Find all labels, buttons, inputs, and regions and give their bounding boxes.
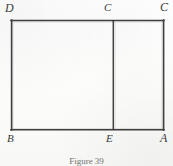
ink-bleed [11,20,164,130]
geometry-diagram [0,0,173,166]
vertex-label-a: A [160,132,167,144]
vertex-label-d: D [5,2,14,14]
vertex-label-b: B [7,133,14,144]
vertex-label-e: E [106,133,113,144]
figure-caption: Figure 39 [0,156,173,166]
rectangle-outline [11,20,164,130]
vertex-label-c-right: C [160,1,168,13]
vertex-label-c-top: C [104,2,111,13]
figure-page: D C C B E A Figure 39 [0,0,173,166]
